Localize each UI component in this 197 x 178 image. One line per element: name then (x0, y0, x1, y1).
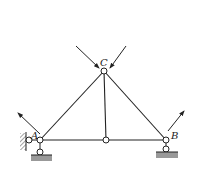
truss-diagram: C A B (0, 0, 197, 178)
node-c (101, 68, 107, 74)
ground-a (31, 155, 52, 161)
node-m (103, 137, 109, 143)
label-b: B (170, 130, 178, 141)
truss-members (40, 71, 166, 140)
member-cm (104, 71, 106, 140)
force-arrow-c-right (110, 46, 126, 68)
force-arrow-b (168, 111, 184, 131)
wall-hatch (20, 133, 26, 150)
node-b (163, 137, 169, 143)
pin-ground-a (37, 149, 43, 155)
member-cb (104, 71, 166, 140)
label-a: A (30, 130, 38, 141)
force-arrow-c-left (76, 46, 99, 68)
pin-ground-b (163, 146, 169, 152)
truss-nodes (37, 68, 169, 143)
ground-b (156, 152, 178, 158)
member-ac (40, 71, 104, 140)
label-c: C (100, 57, 108, 68)
